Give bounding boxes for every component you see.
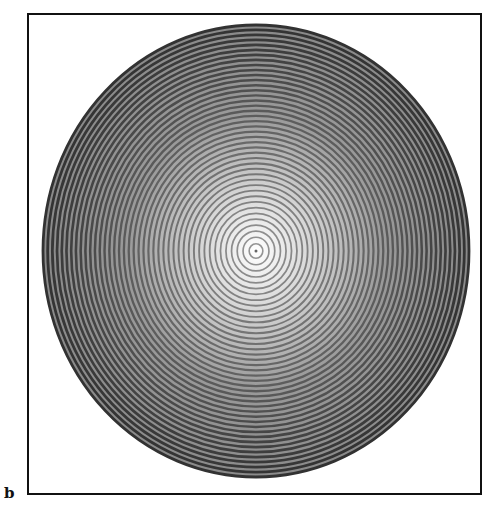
panel-label: b <box>4 486 15 501</box>
center-dot <box>255 250 258 253</box>
concentric-ring-pattern <box>0 0 491 505</box>
